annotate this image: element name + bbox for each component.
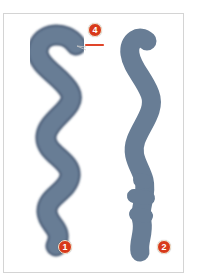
soft-wavy-stroke	[38, 35, 76, 246]
callout-badge-4-label: 4	[92, 25, 97, 35]
callout-badge-2: 2	[157, 240, 171, 254]
brush-strokes-illustration	[0, 0, 197, 279]
callout-badge-1: 1	[58, 240, 72, 254]
callout-badge-2-label: 2	[161, 242, 166, 252]
callout-badge-4: 4	[88, 23, 102, 37]
hard-irregular-stroke	[130, 38, 152, 252]
callout-badge-1-label: 1	[62, 242, 67, 252]
hard-stroke-lumps	[134, 180, 148, 216]
